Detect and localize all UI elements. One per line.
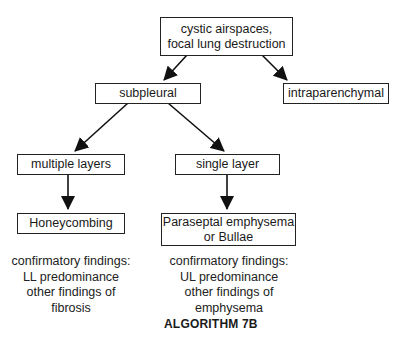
note-honeycombing-findings: confirmatory findings: LL predominance o… (10, 254, 132, 316)
arrow-root-to-subpleural (164, 55, 187, 80)
note-paraseptal-findings: confirmatory findings: UL predominance o… (168, 254, 290, 316)
arrow-subpleural-to-single (168, 103, 224, 151)
arrow-subpleural-to-multiple (75, 103, 128, 151)
node-multiple-layers: multiple layers (17, 154, 125, 175)
node-single-layer: single layer (175, 154, 280, 175)
diagram-title: ALGORITHM 7B (164, 317, 258, 331)
arrow-root-to-intraparenchymal (262, 55, 287, 80)
node-subpleural: subpleural (95, 83, 201, 104)
node-paraseptal-emphysema: Paraseptal emphysema or Bullae (161, 213, 296, 246)
node-intraparenchymal: intraparenchymal (283, 83, 389, 104)
node-cystic-airspaces: cystic airspaces, focal lung destruction (160, 17, 293, 56)
node-honeycombing: Honeycombing (17, 213, 125, 234)
